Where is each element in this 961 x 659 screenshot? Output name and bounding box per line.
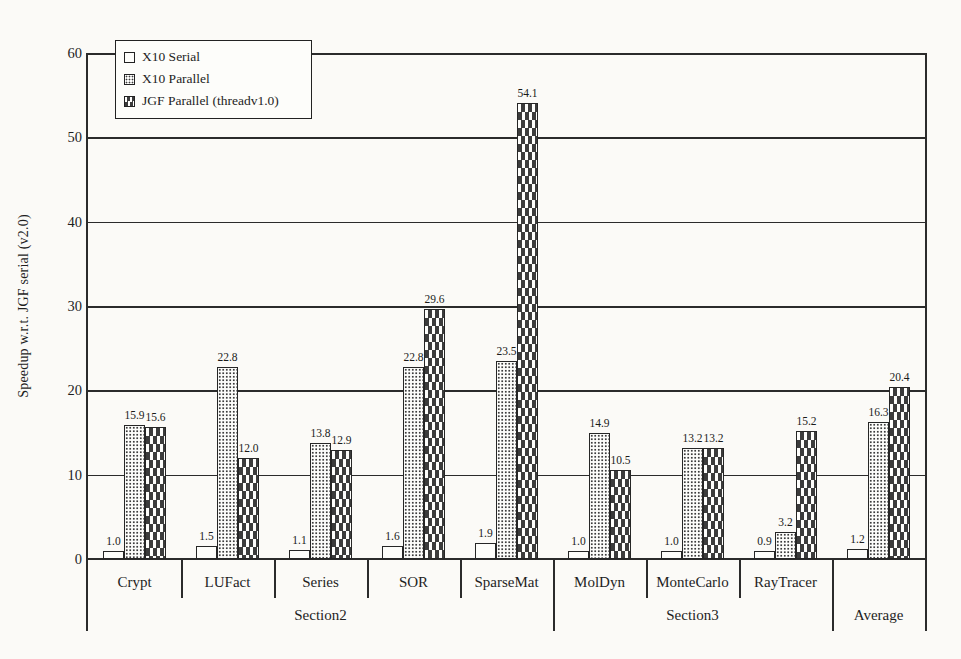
bar-x10-serial-lufact xyxy=(196,546,217,559)
bar-x10-parallel-sor xyxy=(403,367,424,559)
bar-x10-parallel-average xyxy=(868,422,889,559)
bar-x10-serial-series xyxy=(289,550,310,559)
y-tick-label-30: 30 xyxy=(28,297,82,315)
bar-value-label: 15.6 xyxy=(132,410,180,424)
bar-jgf-parallel-threadv1-0-moldyn xyxy=(610,470,631,559)
y-tick-label-40: 40 xyxy=(28,213,82,231)
bar-value-label: 12.0 xyxy=(225,441,273,455)
bar-x10-parallel-montecarlo xyxy=(682,448,703,559)
y-axis-line xyxy=(86,53,88,631)
legend: X10 SerialX10 ParallelJGF Parallel (thre… xyxy=(115,40,312,119)
x-category-label-crypt: Crypt xyxy=(88,567,181,597)
y-tick-label-0: 0 xyxy=(28,550,82,568)
bar-jgf-parallel-threadv1-0-crypt xyxy=(145,427,166,559)
x-section-label-section2: Section2 xyxy=(88,601,553,629)
bar-x10-parallel-sparsemat xyxy=(496,361,517,559)
bar-value-label: 14.9 xyxy=(576,416,624,430)
y-tick-label-50: 50 xyxy=(28,128,82,146)
bar-value-label: 10.5 xyxy=(597,453,645,467)
bar-x10-parallel-crypt xyxy=(124,425,145,559)
bar-jgf-parallel-threadv1-0-raytracer xyxy=(796,431,817,559)
bar-jgf-parallel-threadv1-0-lufact xyxy=(238,458,259,559)
legend-marker-dots-icon xyxy=(124,74,135,85)
gridline-y-50 xyxy=(88,137,925,139)
bar-x10-parallel-raytracer xyxy=(775,532,796,559)
legend-marker-dashes-icon xyxy=(124,96,135,107)
x-section-label-average: Average xyxy=(832,601,925,629)
bar-x10-parallel-moldyn xyxy=(589,433,610,559)
x-category-label-series: Series xyxy=(274,567,367,597)
y-tick-label-60: 60 xyxy=(28,44,82,62)
bar-x10-serial-montecarlo xyxy=(661,551,682,559)
bar-jgf-parallel-threadv1-0-sparsemat xyxy=(517,103,538,559)
x-section-label-section3: Section3 xyxy=(553,601,832,629)
gridline-y-40 xyxy=(88,222,925,224)
bar-value-label: 15.2 xyxy=(783,414,831,428)
bar-x10-parallel-series xyxy=(310,443,331,559)
speedup-bar-chart: Speedup w.r.t. JGF serial (v2.0) 0102030… xyxy=(0,0,961,659)
legend-label: JGF Parallel (threadv1.0) xyxy=(142,93,279,109)
bar-value-label: 29.6 xyxy=(411,292,459,306)
plot-right-border xyxy=(925,53,927,631)
bar-value-label: 13.2 xyxy=(690,431,738,445)
bar-x10-parallel-lufact xyxy=(217,367,238,559)
bar-value-label: 12.9 xyxy=(318,433,366,447)
bar-value-label: 54.1 xyxy=(504,86,552,100)
bar-jgf-parallel-threadv1-0-series xyxy=(331,450,352,559)
legend-item-x10-parallel: X10 Parallel xyxy=(124,68,303,90)
legend-label: X10 Serial xyxy=(142,49,200,65)
legend-item-jgf-parallel-threadv1-0: JGF Parallel (threadv1.0) xyxy=(124,90,303,112)
x-category-label-lufact: LUFact xyxy=(181,567,274,597)
legend-marker-plain-icon xyxy=(124,52,135,63)
bar-value-label: 20.4 xyxy=(876,370,924,384)
x-category-label-montecarlo: MonteCarlo xyxy=(646,567,739,597)
bar-jgf-parallel-threadv1-0-average xyxy=(889,387,910,559)
legend-item-x10-serial: X10 Serial xyxy=(124,46,303,68)
bar-x10-serial-raytracer xyxy=(754,551,775,559)
bar-x10-serial-crypt xyxy=(103,551,124,559)
legend-label: X10 Parallel xyxy=(142,71,210,87)
bar-x10-serial-sor xyxy=(382,546,403,559)
bar-jgf-parallel-threadv1-0-montecarlo xyxy=(703,448,724,559)
gridline-y-30 xyxy=(88,306,925,308)
x-category-label-sparsemat: SparseMat xyxy=(460,567,553,597)
bar-x10-serial-moldyn xyxy=(568,551,589,559)
x-category-label-raytracer: RayTracer xyxy=(739,567,832,597)
y-tick-label-20: 20 xyxy=(28,381,82,399)
x-category-label-moldyn: MolDyn xyxy=(553,567,646,597)
y-tick-label-10: 10 xyxy=(28,466,82,484)
bar-jgf-parallel-threadv1-0-sor xyxy=(424,309,445,559)
bar-x10-serial-sparsemat xyxy=(475,543,496,559)
bar-value-label: 22.8 xyxy=(204,350,252,364)
bar-x10-serial-average xyxy=(847,549,868,559)
x-category-label-sor: SOR xyxy=(367,567,460,597)
